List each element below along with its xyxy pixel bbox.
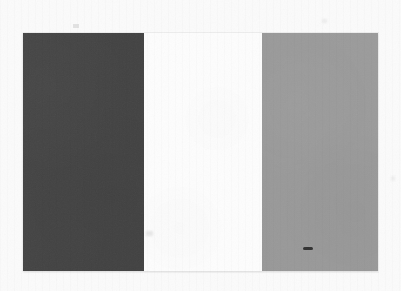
- upper-margin-mark-right-artifact: [322, 19, 327, 23]
- scan-bottom-edge-line: [24, 272, 379, 273]
- dark-speck-artifact: [303, 247, 313, 250]
- flag-band-middle: white band: [144, 33, 262, 271]
- scan-canvas: dark band white band light gray band: [0, 0, 401, 291]
- scan-top-edge-line: [23, 32, 379, 33]
- middle-band-texture: [144, 33, 262, 271]
- hoist-band-texture: [23, 33, 144, 271]
- flag-band-hoist: dark band: [23, 33, 144, 271]
- fly-band-texture: [262, 33, 378, 271]
- flag-band-fly: light gray band: [262, 33, 378, 271]
- upper-margin-mark-left-artifact: [73, 24, 79, 28]
- right-margin-mark-artifact: [391, 176, 395, 181]
- flag-image: dark band white band light gray band: [23, 33, 378, 271]
- white-band-smudge-artifact: [146, 231, 153, 236]
